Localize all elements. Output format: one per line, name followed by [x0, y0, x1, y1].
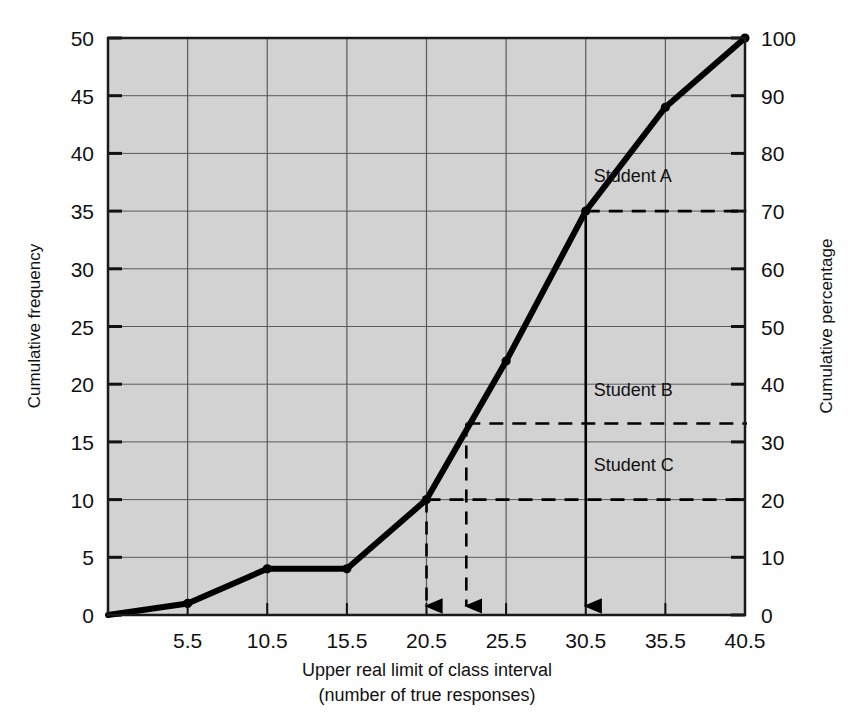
- tick-label-left: 20: [71, 373, 94, 396]
- tick-label-bottom: 20.5: [406, 629, 447, 652]
- tick-label-right: 80: [761, 142, 784, 165]
- chart-canvas: 05101520253035404550 0102030405060708090…: [0, 0, 862, 726]
- tick-label-left: 15: [71, 431, 94, 454]
- tick-label-bottom: 15.5: [326, 629, 367, 652]
- data-point: [183, 599, 192, 608]
- tick-label-right: 30: [761, 431, 784, 454]
- tick-label-right: 90: [761, 85, 784, 108]
- tick-label-left: 50: [71, 27, 94, 50]
- tick-label-bottom: 30.5: [565, 629, 606, 652]
- cumulative-frequency-ogive-figure: 05101520253035404550 0102030405060708090…: [0, 0, 862, 726]
- tick-label-bottom: 5.5: [173, 629, 202, 652]
- tick-label-left: 45: [71, 85, 94, 108]
- left-axis-title: Cumulative frequency: [25, 243, 44, 408]
- tick-label-left: 0: [82, 604, 94, 627]
- tick-label-right: 50: [761, 316, 784, 339]
- tick-label-left: 10: [71, 489, 94, 512]
- annotation-label: Student A: [594, 166, 672, 186]
- tick-label-bottom: 40.5: [725, 629, 766, 652]
- tick-label-left: 35: [71, 200, 94, 223]
- tick-label-right: 0: [761, 604, 773, 627]
- tick-label-right: 40: [761, 373, 784, 396]
- data-point: [661, 103, 670, 112]
- right-axis-title: Cumulative percentage: [817, 239, 836, 414]
- tick-label-bottom: 25.5: [486, 629, 527, 652]
- annotation-label: Student B: [594, 380, 673, 400]
- tick-label-right: 20: [761, 489, 784, 512]
- tick-label-right: 60: [761, 258, 784, 281]
- tick-label-left: 30: [71, 258, 94, 281]
- data-point: [422, 495, 431, 504]
- tick-label-right: 100: [761, 27, 796, 50]
- x-axis-title-line1: Upper real limit of class interval: [302, 660, 552, 680]
- data-point: [581, 207, 590, 216]
- tick-label-right: 70: [761, 200, 784, 223]
- data-point: [263, 564, 272, 573]
- tick-label-bottom: 10.5: [247, 629, 288, 652]
- tick-label-bottom: 35.5: [645, 629, 686, 652]
- tick-label-left: 25: [71, 316, 94, 339]
- data-point: [342, 564, 351, 573]
- tick-label-left: 40: [71, 142, 94, 165]
- data-point: [502, 357, 511, 366]
- tick-label-right: 10: [761, 546, 784, 569]
- tick-label-left: 5: [82, 546, 94, 569]
- annotation-label: Student C: [594, 455, 674, 475]
- x-axis-title-line2: (number of true responses): [318, 685, 535, 705]
